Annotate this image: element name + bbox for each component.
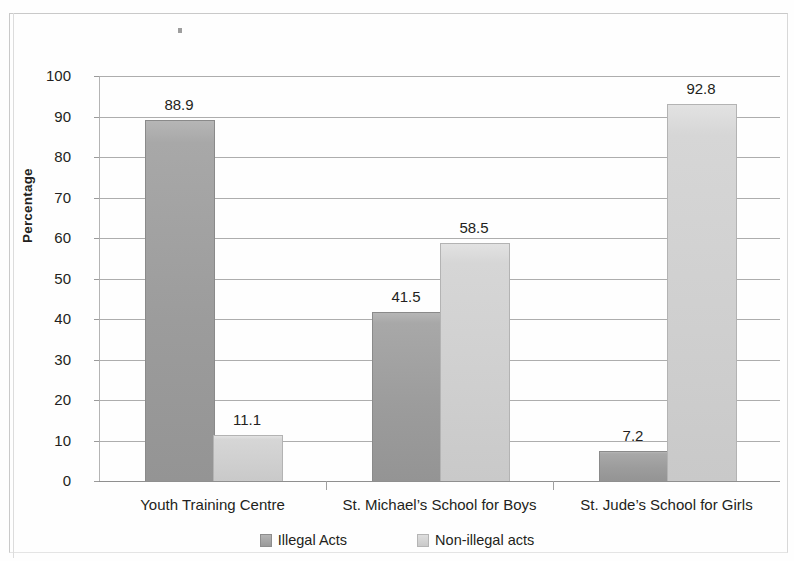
- legend-swatch-icon: [417, 534, 429, 547]
- y-tick-mark: [94, 319, 99, 320]
- x-axis-category-label: St. Jude’s School for Girls: [553, 497, 780, 514]
- bar[interactable]: [213, 435, 283, 481]
- x-axis-category-label: Youth Training Centre: [99, 497, 326, 514]
- plot-area: 100908070605040302010088.911.141.558.57.…: [99, 76, 780, 481]
- gridline: [99, 76, 780, 77]
- y-tick-mark: [94, 481, 99, 482]
- bar[interactable]: [667, 104, 737, 481]
- legend-item[interactable]: Non-illegal acts: [417, 533, 534, 548]
- x-axis-category-label: St. Michael’s School for Boys: [326, 497, 553, 514]
- y-tick-label: 90: [25, 109, 71, 124]
- bar[interactable]: [372, 312, 442, 481]
- y-tick-label: 0: [25, 473, 71, 488]
- y-tick-mark: [94, 279, 99, 280]
- y-tick-mark: [94, 198, 99, 199]
- y-tick-label: 50: [25, 271, 71, 286]
- y-tick-mark: [94, 441, 99, 442]
- bar-value-label: 11.1: [193, 412, 301, 427]
- legend-label: Non-illegal acts: [435, 533, 534, 548]
- y-tick-mark: [94, 76, 99, 77]
- y-tick-label: 20: [25, 392, 71, 407]
- scan-artifact-speck: [178, 28, 182, 33]
- page-border-inner-line: [13, 13, 14, 558]
- bar-value-label: 92.8: [647, 81, 755, 96]
- legend-label: Illegal Acts: [278, 533, 347, 548]
- y-tick-mark: [94, 157, 99, 158]
- y-tick-mark: [94, 238, 99, 239]
- y-tick-mark: [94, 400, 99, 401]
- chart-legend: Illegal ActsNon-illegal acts: [0, 533, 794, 548]
- bar-value-label: 58.5: [420, 220, 528, 235]
- y-tick-mark: [94, 360, 99, 361]
- bar[interactable]: [440, 243, 510, 481]
- y-tick-label: 70: [25, 190, 71, 205]
- gridline: [99, 481, 780, 482]
- y-tick-label: 60: [25, 230, 71, 245]
- legend-swatch-icon: [260, 534, 272, 547]
- y-tick-mark: [94, 117, 99, 118]
- y-tick-label: 10: [25, 433, 71, 448]
- legend-item[interactable]: Illegal Acts: [260, 533, 347, 548]
- bar-value-label: 88.9: [125, 97, 233, 112]
- bar[interactable]: [599, 451, 669, 481]
- bar-chart: Percentage 100908070605040302010088.911.…: [0, 0, 794, 561]
- x-axis-tick: [553, 481, 554, 490]
- y-tick-label: 30: [25, 352, 71, 367]
- y-tick-label: 40: [25, 311, 71, 326]
- y-tick-label: 80: [25, 149, 71, 164]
- y-tick-label: 100: [25, 68, 71, 83]
- x-axis-tick: [326, 481, 327, 490]
